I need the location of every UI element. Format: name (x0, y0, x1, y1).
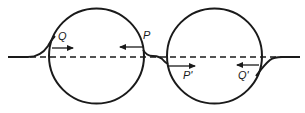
right-circle (167, 9, 262, 104)
diagram-canvas: Q P P' Q' (0, 0, 305, 113)
label-P-prime: P' (183, 69, 193, 81)
label-Q-prime: Q' (238, 69, 250, 81)
left-circle (49, 9, 144, 104)
label-Q: Q (58, 30, 67, 42)
label-P: P (143, 29, 151, 41)
left-surface-curve (8, 36, 55, 57)
diagram-svg: Q P P' Q' (0, 0, 305, 113)
